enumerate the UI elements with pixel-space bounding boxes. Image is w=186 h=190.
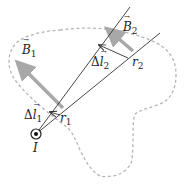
b1-field-arrow bbox=[22, 67, 63, 108]
dl2-symbol: l bbox=[100, 56, 104, 68]
label-b1: B1 bbox=[22, 44, 37, 59]
label-current-i: I bbox=[33, 142, 38, 154]
diagram-svg bbox=[0, 0, 186, 190]
dl1-symbol: l bbox=[33, 109, 37, 121]
b2-subscript: 2 bbox=[132, 26, 138, 36]
dl2-prefix: Δ bbox=[91, 55, 100, 69]
dl1-prefix: Δ bbox=[24, 108, 33, 122]
dl1-subscript: 1 bbox=[37, 114, 43, 124]
b2-symbol: B bbox=[123, 21, 132, 33]
label-dl1: Δl1 bbox=[24, 109, 42, 124]
radial-line-2 bbox=[36, 33, 160, 134]
dl2-subscript: 2 bbox=[104, 61, 110, 71]
current-dot-icon bbox=[34, 132, 38, 136]
label-r2: r2 bbox=[132, 56, 143, 71]
b1-subscript: 1 bbox=[31, 49, 37, 59]
diagram-canvas: B1 B2 Δl2 r2 Δl1 r1 I bbox=[0, 0, 186, 190]
label-dl2: Δl2 bbox=[91, 56, 109, 71]
i-symbol: I bbox=[33, 141, 38, 155]
radial-line-1 bbox=[36, 7, 130, 134]
r2-subscript: 2 bbox=[138, 61, 144, 71]
b1-symbol: B bbox=[22, 44, 31, 56]
label-b2: B2 bbox=[123, 21, 138, 36]
label-r1: r1 bbox=[60, 112, 71, 127]
r1-subscript: 1 bbox=[66, 117, 72, 127]
